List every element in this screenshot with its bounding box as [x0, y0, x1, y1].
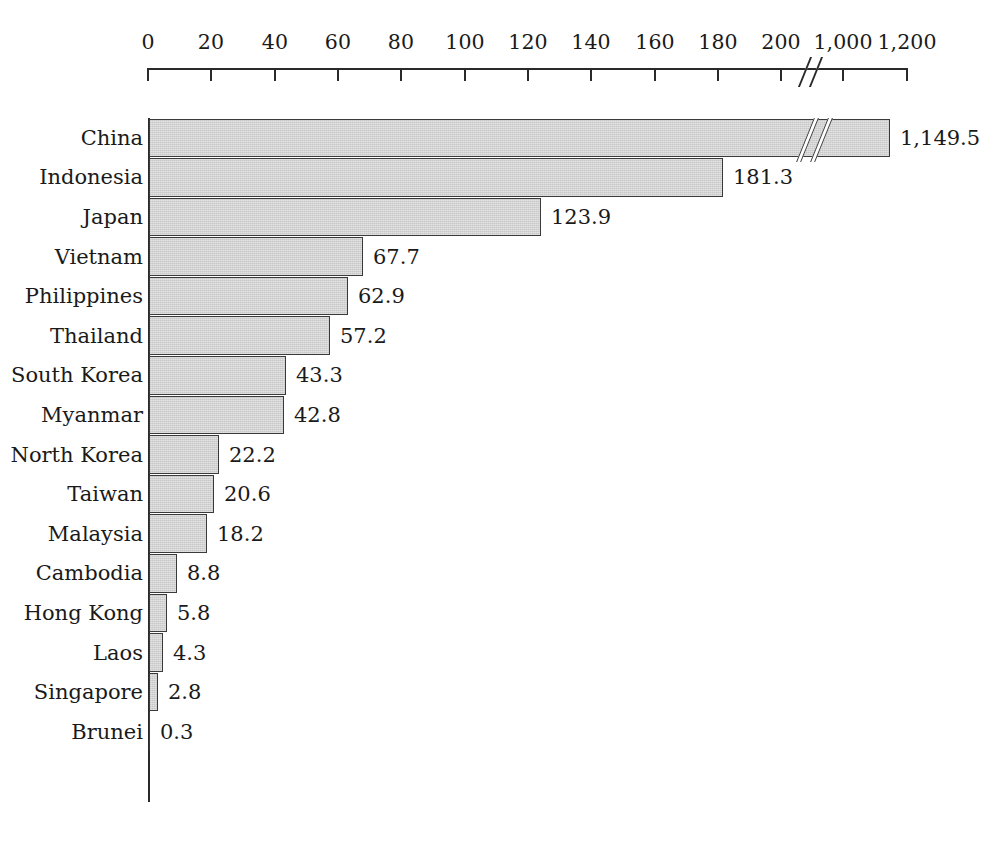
bar-row: Brunei0.3 — [0, 712, 1005, 752]
category-label: Brunei — [71, 720, 143, 744]
x-axis-tick — [906, 68, 908, 81]
value-label: 8.8 — [187, 561, 220, 585]
x-axis-tick — [717, 68, 719, 81]
bar — [149, 435, 219, 474]
value-label: 42.8 — [294, 403, 341, 427]
category-label: Hong Kong — [24, 601, 143, 625]
category-label: Laos — [93, 641, 143, 665]
x-axis-tick-label: 140 — [571, 30, 610, 54]
bar — [149, 633, 163, 672]
bar-row: Taiwan20.6 — [0, 474, 1005, 514]
value-label: 5.8 — [177, 601, 210, 625]
x-axis-tick-label: 80 — [388, 30, 414, 54]
category-label: Myanmar — [41, 403, 143, 427]
bar — [149, 475, 214, 514]
x-axis-tick — [842, 68, 844, 81]
bar — [149, 673, 158, 712]
value-label: 62.9 — [358, 284, 405, 308]
value-label: 181.3 — [733, 165, 793, 189]
bar-break-icon — [805, 118, 835, 162]
value-label: 67.7 — [373, 245, 420, 269]
bar — [149, 594, 167, 633]
value-label: 1,149.5 — [900, 126, 980, 150]
bar — [149, 158, 723, 197]
bar-row: Vietnam67.7 — [0, 237, 1005, 277]
x-axis-tick-label: 100 — [445, 30, 484, 54]
bar — [149, 316, 330, 355]
bar-row: Philippines62.9 — [0, 276, 1005, 316]
category-label: Indonesia — [39, 165, 143, 189]
value-label: 22.2 — [229, 443, 276, 467]
value-label: 0.3 — [160, 720, 193, 744]
bar-row: South Korea43.3 — [0, 356, 1005, 396]
bar-row: Japan123.9 — [0, 197, 1005, 237]
value-label: 123.9 — [551, 205, 611, 229]
x-axis-tick — [274, 68, 276, 81]
bar-row: Malaysia18.2 — [0, 514, 1005, 554]
bar-row: Thailand57.2 — [0, 316, 1005, 356]
bar — [149, 277, 348, 316]
category-label: Taiwan — [67, 482, 143, 506]
category-label: Cambodia — [36, 561, 143, 585]
bar-row: Laos4.3 — [0, 633, 1005, 673]
x-axis-tick-labels: 0204060801001201401601802001,0001,200 — [0, 30, 1005, 58]
x-axis-tick — [464, 68, 466, 81]
bar-row: Cambodia8.8 — [0, 554, 1005, 594]
category-label: North Korea — [11, 443, 143, 467]
x-axis-tick — [337, 68, 339, 81]
x-axis-tick — [654, 68, 656, 81]
bar-rows: China1,149.5Indonesia181.3Japan123.9Viet… — [0, 118, 1005, 752]
bar-row: North Korea22.2 — [0, 435, 1005, 475]
x-axis-tick-label: 200 — [761, 30, 800, 54]
category-label: Philippines — [25, 284, 143, 308]
bar — [149, 356, 286, 395]
bar — [149, 198, 541, 237]
x-axis-tick-label: 120 — [508, 30, 547, 54]
bar — [149, 514, 207, 553]
bar — [149, 119, 890, 158]
bar — [149, 237, 363, 276]
value-label: 43.3 — [296, 363, 343, 387]
bar-row: Hong Kong5.8 — [0, 593, 1005, 633]
bar-row: China1,149.5 — [0, 118, 1005, 158]
x-axis-tick — [590, 68, 592, 81]
bar-row: Indonesia181.3 — [0, 158, 1005, 198]
category-label: South Korea — [11, 363, 143, 387]
category-label: Japan — [83, 205, 143, 229]
axis-break-icon — [798, 58, 826, 86]
x-axis-tick-label: 20 — [198, 30, 224, 54]
x-axis-tick-label: 1,000 — [813, 30, 872, 54]
x-axis-tick — [400, 68, 402, 81]
bar — [149, 554, 177, 593]
value-label: 4.3 — [173, 641, 206, 665]
x-axis-tick — [780, 68, 782, 81]
category-label: Malaysia — [48, 522, 143, 546]
x-axis-tick — [147, 68, 149, 81]
value-label: 18.2 — [217, 522, 264, 546]
bar-row: Singapore2.8 — [0, 672, 1005, 712]
bar — [149, 396, 284, 435]
bar — [149, 712, 150, 751]
x-axis-tick-label: 1,200 — [877, 30, 936, 54]
x-axis-tick-label: 180 — [698, 30, 737, 54]
x-axis-tick — [527, 68, 529, 81]
category-label: Thailand — [50, 324, 143, 348]
x-axis-tick — [210, 68, 212, 81]
x-axis-tick-label: 0 — [141, 30, 154, 54]
x-axis-tick-label: 40 — [262, 30, 288, 54]
bar-row: Myanmar42.8 — [0, 395, 1005, 435]
category-label: Vietnam — [55, 245, 143, 269]
category-label: China — [81, 126, 143, 150]
x-axis-tick-label: 160 — [635, 30, 674, 54]
value-label: 2.8 — [168, 680, 201, 704]
value-label: 57.2 — [340, 324, 387, 348]
bar-chart: 0204060801001201401601802001,0001,200 Ch… — [0, 0, 1005, 847]
value-label: 20.6 — [224, 482, 271, 506]
x-axis-tick-label: 60 — [325, 30, 351, 54]
category-label: Singapore — [34, 680, 143, 704]
